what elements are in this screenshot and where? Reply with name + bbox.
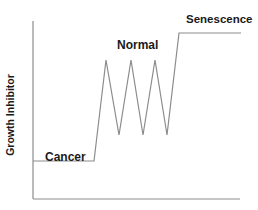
growth-inhibitor-trace [33,33,241,161]
senescence-label: Senescence [186,14,253,26]
normal-label: Normal [117,39,158,51]
diagram-canvas [0,0,258,210]
cancer-label: Cancer [45,151,86,163]
growth-inhibitor-diagram: Normal Cancer Senescence Growth Inhibito… [0,0,258,210]
y-axis-label: Growth Inhibitor [5,74,16,156]
